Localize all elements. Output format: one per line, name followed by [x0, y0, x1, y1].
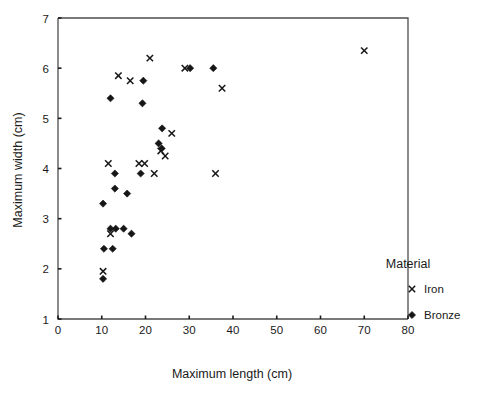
cross-marker	[127, 78, 133, 84]
cross-marker	[169, 130, 175, 136]
data-points-group	[99, 47, 367, 282]
y-tick-label: 3	[43, 213, 49, 225]
x-axis-title: Maximum length (cm)	[172, 367, 292, 381]
cross-marker	[115, 72, 121, 78]
legend-item-label: Bronze	[424, 309, 460, 321]
x-tick-label: 50	[270, 324, 283, 336]
legend-title: Material	[386, 257, 430, 271]
diamond-marker	[137, 170, 144, 177]
diamond-marker	[128, 230, 135, 237]
legend-item-bronze[interactable]: Bronze	[408, 309, 460, 321]
x-tick-label: 60	[314, 324, 327, 336]
legend-item-iron[interactable]: Iron	[409, 283, 444, 295]
diamond-marker	[210, 65, 217, 72]
cross-marker	[409, 286, 415, 292]
cross-marker	[141, 160, 147, 166]
diamond-marker	[111, 170, 118, 177]
x-tick-label: 70	[358, 324, 371, 336]
series-bronze	[99, 65, 216, 283]
plot-canvas: 010203040506070801234567 Maximum length …	[0, 0, 480, 396]
cross-marker	[136, 160, 142, 166]
series-iron	[100, 47, 368, 274]
diamond-marker	[100, 245, 107, 252]
cross-marker	[361, 47, 367, 53]
x-tick-label: 20	[139, 324, 152, 336]
cross-marker	[151, 170, 157, 176]
diamond-marker	[120, 225, 127, 232]
cross-marker	[162, 153, 168, 159]
tick-labels-group: 010203040506070801234567	[43, 13, 415, 337]
scatter-plot-figure: 010203040506070801234567 Maximum length …	[0, 0, 480, 396]
y-tick-label: 6	[43, 63, 49, 75]
ticks-group	[58, 18, 408, 319]
x-tick-label: 0	[55, 324, 61, 336]
diamond-marker	[139, 100, 146, 107]
diamond-marker	[159, 125, 166, 132]
diamond-marker	[99, 200, 106, 207]
cross-marker	[212, 170, 218, 176]
y-tick-label: 7	[43, 13, 49, 25]
cross-marker	[105, 160, 111, 166]
x-tick-label: 80	[402, 324, 415, 336]
diamond-marker	[111, 185, 118, 192]
diamond-marker	[408, 311, 415, 318]
cross-marker	[147, 55, 153, 61]
axes-group	[58, 18, 408, 319]
x-tick-label: 40	[227, 324, 240, 336]
diamond-marker	[124, 190, 131, 197]
y-tick-label: 4	[43, 163, 50, 175]
cross-marker	[219, 85, 225, 91]
y-tick-label: 2	[43, 263, 49, 275]
y-tick-label: 1	[43, 314, 49, 326]
diamond-marker	[107, 95, 114, 102]
y-tick-label: 5	[43, 113, 49, 125]
x-tick-label: 10	[95, 324, 108, 336]
cross-marker	[100, 268, 106, 274]
diamond-marker	[109, 245, 116, 252]
legend-item-label: Iron	[424, 283, 444, 295]
x-tick-label: 30	[183, 324, 196, 336]
legend-entries: IronBronze	[408, 283, 460, 321]
legend: Material IronBronze	[386, 257, 461, 321]
y-axis-title: Maximum width (cm)	[11, 112, 25, 227]
diamond-marker	[99, 275, 106, 282]
diamond-marker	[140, 77, 147, 84]
